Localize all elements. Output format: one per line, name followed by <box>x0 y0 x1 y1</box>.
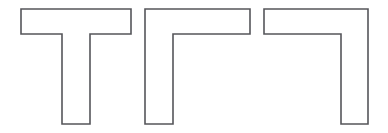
shape-mirrored-gamma <box>264 9 368 124</box>
shape-t <box>21 9 131 124</box>
figure-canvas <box>0 0 388 133</box>
shape-gamma <box>145 9 250 124</box>
shapes-figure <box>0 0 388 133</box>
